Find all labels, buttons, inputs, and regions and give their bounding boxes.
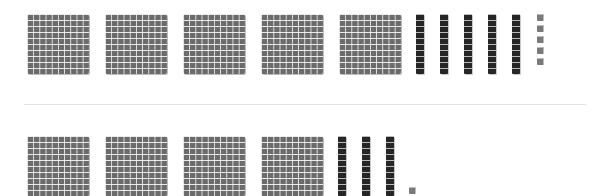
ten-rod bbox=[338, 136, 346, 196]
hundred-block bbox=[27, 136, 89, 196]
hundred-block bbox=[183, 136, 245, 196]
hundred-block bbox=[261, 136, 323, 196]
ten-rod bbox=[386, 136, 394, 196]
row-bottom bbox=[0, 0, 600, 196]
one-cube bbox=[409, 187, 416, 194]
hundred-block bbox=[105, 136, 167, 196]
ten-rod bbox=[362, 136, 370, 196]
